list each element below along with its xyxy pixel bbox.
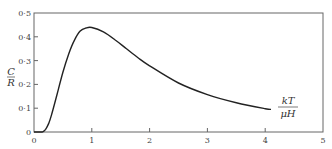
x-axis-ticks xyxy=(92,128,265,132)
y-label-denominator: R xyxy=(6,77,15,88)
y-tick-0.5: 0·5 xyxy=(18,9,31,18)
y-tick-0.3: 0·3 xyxy=(18,57,31,66)
x-tick-0: 0 xyxy=(31,136,36,145)
y-tick-0.1: 0·1 xyxy=(18,104,31,113)
y-tick-0: 0 xyxy=(26,128,31,137)
y-label-numerator: C xyxy=(7,66,15,77)
y-tick-0.4: 0·4 xyxy=(18,33,31,42)
x-axis-tick-labels: 0 1 2 3 4 5 xyxy=(31,136,325,145)
x-axis-label: kT μH xyxy=(278,95,298,119)
x-label-numerator: kT xyxy=(282,95,296,106)
x-label-denominator: μH xyxy=(280,108,295,119)
x-tick-4: 4 xyxy=(263,136,268,145)
x-tick-5: 5 xyxy=(320,136,325,145)
y-tick-0.2: 0·2 xyxy=(18,80,31,89)
x-tick-1: 1 xyxy=(89,136,94,145)
x-tick-3: 3 xyxy=(205,136,210,145)
y-axis-label: C R xyxy=(6,66,15,88)
chart: 0 1 2 3 4 5 0 0·1 0·2 0·3 0·4 0·5 C R kT… xyxy=(0,0,332,149)
x-tick-2: 2 xyxy=(147,136,152,145)
y-axis-ticks xyxy=(34,37,38,108)
y-axis-tick-labels: 0 0·1 0·2 0·3 0·4 0·5 xyxy=(18,9,31,137)
schottky-curve xyxy=(34,27,271,132)
